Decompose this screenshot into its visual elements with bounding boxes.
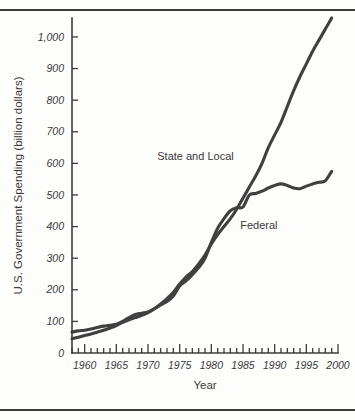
x-tick-label: 1995 [295, 359, 319, 371]
x-tick-label: 1975 [168, 359, 192, 371]
y-tick-label: 1,000 [38, 31, 64, 43]
y-tick-label: 100 [46, 315, 64, 327]
y-axis-title: U.S. Government Spending (billion dollar… [12, 76, 24, 294]
x-tick-label: 1990 [263, 359, 287, 371]
y-tick-label: 900 [46, 62, 64, 74]
series-line-state-and-local [72, 18, 332, 339]
y-tick-label: 800 [46, 94, 64, 106]
x-axis-ticks [72, 344, 338, 353]
x-tick-label: 1960 [73, 359, 97, 371]
y-tick-label: 200 [45, 283, 64, 295]
x-axis-tick-labels: 196019651970197519801985199019952000 [73, 359, 350, 371]
y-tick-label: 0 [58, 347, 64, 359]
y-tick-label: 700 [46, 125, 64, 137]
x-tick-label: 2000 [325, 359, 350, 371]
series-label-federal: Federal [240, 219, 277, 231]
y-tick-label: 300 [46, 252, 64, 264]
y-tick-label: 400 [46, 220, 64, 232]
x-tick-label: 1985 [231, 359, 255, 371]
y-axis-group: 01002003004005006007008009001,000 U.S. G… [12, 18, 78, 359]
y-axis-tick-labels: 01002003004005006007008009001,000 [38, 31, 64, 359]
figure-container: 01002003004005006007008009001,000 U.S. G… [0, 0, 355, 420]
series-line-federal [72, 171, 332, 332]
x-tick-label: 1970 [136, 359, 160, 371]
x-axis-group: 196019651970197519801985199019952000 Yea… [72, 344, 350, 391]
x-axis-title: Year [193, 379, 216, 391]
x-tick-label: 1965 [105, 359, 129, 371]
data-series-group [72, 18, 332, 339]
y-axis-ticks [72, 37, 78, 321]
y-tick-label: 600 [46, 157, 64, 169]
line-chart: 01002003004005006007008009001,000 U.S. G… [0, 0, 355, 420]
series-label-state-and-local: State and Local [157, 150, 233, 162]
x-tick-label: 1980 [200, 359, 224, 371]
y-tick-label: 500 [46, 189, 64, 201]
